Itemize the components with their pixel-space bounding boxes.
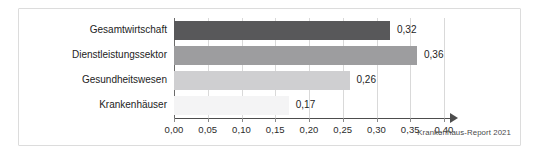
bar-row [174,68,350,93]
value-label: 0,17 [296,99,315,110]
x-axis-tick [208,118,209,122]
x-axis-tick [343,118,344,122]
x-axis-tick [309,118,310,122]
bar-row [174,93,289,118]
x-axis-tick [444,118,445,122]
x-axis-arrow-icon [450,113,458,123]
x-axis-tick [275,118,276,122]
category-label: Gesamtwirtschaft [7,24,167,35]
category-label: Krankenhäuser [7,99,167,110]
bar-row [174,43,417,68]
value-label: 0,32 [397,24,416,35]
x-axis-tick [377,118,378,122]
category-label: Dienstleistungssektor [7,49,167,60]
x-axis-tick [410,118,411,122]
bar-row [174,18,390,43]
x-axis-tick [174,118,175,122]
value-label: 0,26 [357,74,376,85]
x-axis-tick [242,118,243,122]
category-label: Gesundheitswesen [7,74,167,85]
bar [174,71,350,90]
bar [174,21,390,40]
bar [174,96,289,115]
bar [174,46,417,65]
chart-figure: 0,000,050,100,150,200,250,300,350,40 Ges… [0,0,539,162]
source-caption: Krankenhaus-Report 2021 [417,128,511,137]
gridline [444,18,445,118]
value-label: 0,36 [424,49,443,60]
